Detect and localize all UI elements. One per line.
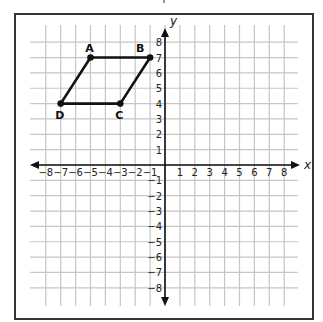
- x-tick-label: 1: [177, 167, 183, 178]
- y-tick-label: −6: [147, 252, 162, 263]
- x-tick-label: 3: [207, 167, 213, 178]
- point-D: [57, 100, 64, 107]
- x-tick-label: 5: [236, 167, 242, 178]
- y-tick-label: 1: [156, 145, 162, 156]
- y-tick-label: −5: [147, 237, 162, 248]
- coordinate-plane: −8−7−6−5−4−3−2−112345678−8−7−6−5−4−3−2−1…: [0, 0, 323, 322]
- x-tick-label: 8: [281, 167, 287, 178]
- y-tick-label: 3: [156, 114, 162, 125]
- point-B: [147, 54, 154, 61]
- x-tick-label: 4: [221, 167, 227, 178]
- x-tick-label: −2: [128, 167, 143, 178]
- x-tick-label: −4: [98, 167, 113, 178]
- y-tick-label: 2: [156, 129, 162, 140]
- y-tick-label: 8: [156, 37, 162, 48]
- x-axis-label: x: [303, 158, 312, 172]
- y-tick-label: −7: [147, 267, 162, 278]
- point-label-B: B: [136, 42, 144, 55]
- y-tick-label: 4: [156, 99, 162, 110]
- y-tick-label: 7: [156, 53, 162, 64]
- x-tick-label: 7: [266, 167, 272, 178]
- y-tick-label: 6: [156, 68, 162, 79]
- point-C: [117, 100, 124, 107]
- x-tick-label: −7: [53, 167, 68, 178]
- y-tick-label: 5: [156, 83, 162, 94]
- x-tick-label: 6: [251, 167, 257, 178]
- y-axis-label: y: [169, 14, 178, 28]
- point-label-A: A: [85, 42, 94, 55]
- y-tick-label: −1: [147, 175, 162, 186]
- x-tick-label: −3: [113, 167, 128, 178]
- y-tick-label: −3: [147, 206, 162, 217]
- y-tick-label: −4: [147, 221, 162, 232]
- x-tick-label: −8: [38, 167, 53, 178]
- point-label-C: C: [115, 109, 123, 122]
- y-tick-label: −2: [147, 191, 162, 202]
- x-tick-label: −5: [83, 167, 98, 178]
- point-label-D: D: [55, 109, 64, 122]
- y-tick-label: −8: [147, 283, 162, 294]
- point-A: [87, 54, 94, 61]
- x-tick-label: −6: [68, 167, 83, 178]
- x-tick-label: 2: [192, 167, 198, 178]
